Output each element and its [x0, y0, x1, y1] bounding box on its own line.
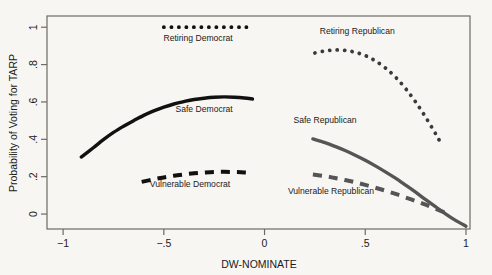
x-tick-label: 0 — [262, 237, 268, 249]
x-tick-label: −1 — [57, 237, 69, 249]
plot-area: 0.2.4.6.81−1−.50.51 Retiring DemocratSaf… — [0, 0, 492, 275]
series-label: Retiring Democrat — [163, 33, 233, 43]
series-label: Retiring Republican — [320, 26, 395, 36]
y-tick-label: .8 — [27, 60, 39, 69]
series-label: Vulnerable Republican — [288, 186, 374, 196]
series-label: Vulnerable Democrat — [150, 179, 231, 189]
x-axis-title: DW-NOMINATE — [221, 258, 296, 270]
series-label: Safe Democrat — [175, 104, 233, 114]
y-tick-label: .2 — [27, 172, 39, 181]
chart-figure: 0.2.4.6.81−1−.50.51 Retiring DemocratSaf… — [0, 0, 492, 275]
y-tick-label: .6 — [27, 97, 39, 106]
x-tick-label: .5 — [361, 237, 370, 249]
x-tick-label: 1 — [463, 237, 469, 249]
y-tick-label: .4 — [27, 135, 39, 144]
x-tick-label: −.5 — [156, 237, 171, 249]
series-label: Safe Republican — [293, 115, 356, 125]
figure-background — [0, 0, 492, 275]
y-axis-title: Probability of Voting for TARP — [7, 54, 19, 192]
y-tick-label: 0 — [27, 211, 39, 217]
y-tick-label: 1 — [27, 24, 39, 30]
